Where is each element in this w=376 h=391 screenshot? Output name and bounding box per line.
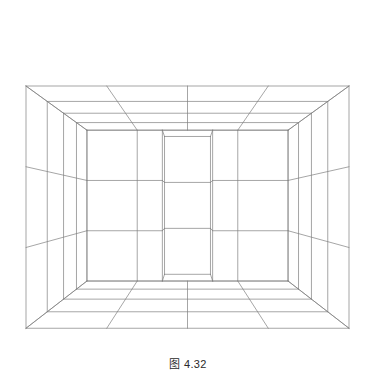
room-wireframe-lines <box>26 86 349 328</box>
wire-segment <box>26 231 87 248</box>
wire-segment <box>26 86 87 130</box>
wire-segment <box>288 86 349 130</box>
wire-segment <box>288 231 349 248</box>
perspective-room-drawing <box>0 0 376 391</box>
wire-segment <box>26 281 87 328</box>
wire-segment <box>238 86 268 130</box>
wire-segment <box>288 167 349 181</box>
wire-segment <box>107 86 137 130</box>
wire-segment <box>288 281 349 328</box>
figure-caption: 图 4.32 <box>0 355 376 371</box>
wire-segment <box>238 281 268 328</box>
figure-container: 图 4.32 <box>0 0 376 391</box>
wire-segment <box>107 281 137 328</box>
wire-segment <box>26 167 87 181</box>
